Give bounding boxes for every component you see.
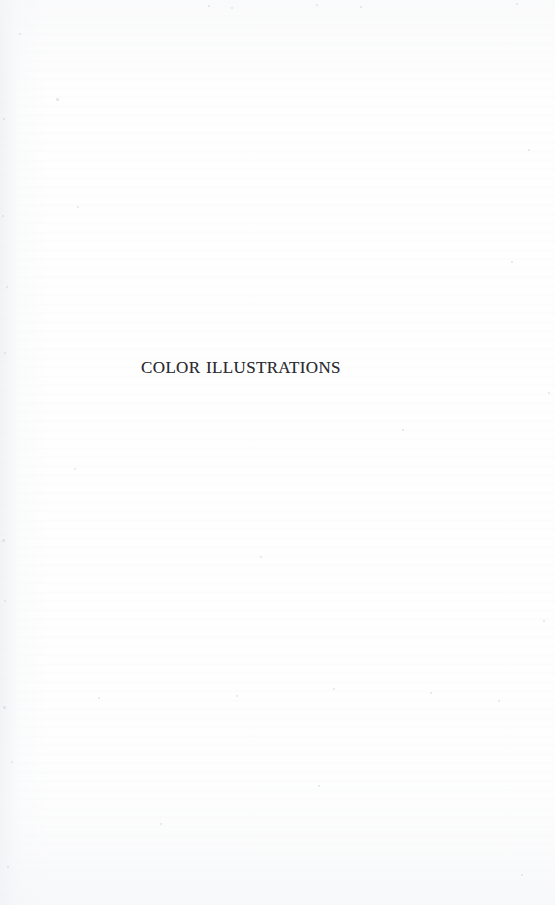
scan-speck [430, 692, 432, 694]
scan-speck [3, 706, 6, 709]
scan-speck [360, 6, 362, 8]
scan-speck [7, 866, 9, 868]
scan-speck [4, 600, 6, 602]
scan-speck [521, 874, 523, 876]
scan-speck [208, 5, 210, 7]
scan-speck [19, 33, 21, 35]
scan-speck [231, 7, 233, 9]
scan-shading-bottom [0, 675, 555, 905]
scan-speck [77, 206, 79, 208]
scan-speck [260, 556, 262, 558]
scan-speck [160, 823, 162, 825]
scan-speck [2, 539, 5, 542]
scan-speck [74, 468, 76, 470]
scan-speck [318, 785, 320, 787]
section-title-block: COLOR ILLUSTRATIONS [0, 358, 482, 378]
scan-speck [543, 620, 545, 622]
scan-shading-top [0, 0, 555, 90]
scan-speck [3, 118, 5, 120]
page-title: COLOR ILLUSTRATIONS [141, 358, 341, 378]
scan-speck [402, 429, 404, 431]
scan-speck [6, 286, 8, 288]
scan-banding-texture [0, 0, 555, 905]
scan-speck [511, 261, 513, 263]
scan-speck [4, 352, 6, 354]
scan-speck [98, 697, 100, 699]
scan-speck [11, 761, 13, 763]
scan-speck [56, 98, 59, 101]
scan-gutter-shading-left [0, 0, 48, 905]
scan-speck [333, 688, 335, 690]
scan-speck [498, 700, 500, 702]
scan-speck [2, 215, 4, 217]
scan-speck [516, 3, 518, 5]
scanned-page: COLOR ILLUSTRATIONS [0, 0, 555, 905]
scan-speck [528, 149, 530, 151]
scan-speck [316, 4, 318, 6]
scan-speck [236, 695, 238, 697]
scan-speck [548, 392, 550, 394]
